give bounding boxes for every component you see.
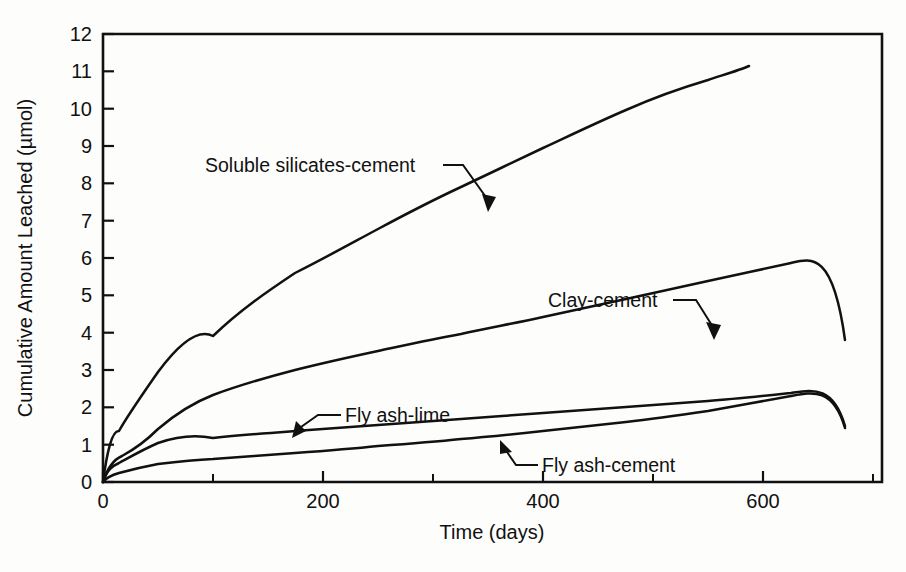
x-axis-title: Time (days) (440, 521, 545, 543)
data-curves (103, 66, 845, 482)
y-tick-label-9: 9 (81, 135, 92, 157)
y-tick-label-0: 0 (81, 471, 92, 493)
x-axis-tick-labels: 0 200 400 600 (97, 490, 779, 512)
plot-frame (103, 34, 882, 482)
y-tick-label-10: 10 (70, 98, 92, 120)
series-label-clay-cement: Clay-cement (548, 289, 658, 311)
leader-soluble-silicates-cement (443, 165, 488, 200)
figure-canvas: 0 1 2 3 4 5 6 7 8 9 10 11 12 0 (0, 0, 906, 572)
arrowhead-fly-ash-lime (292, 421, 306, 438)
arrowhead-soluble-silicates-cement (482, 194, 496, 212)
series-label-soluble-silicates-cement: Soluble silicates-cement (205, 154, 416, 176)
y-tick-label-2: 2 (81, 396, 92, 418)
y-axis-title: Cumulative Amount Leached (µmol) (14, 99, 36, 417)
y-axis-ticks (103, 34, 114, 482)
x-tick-label-600: 600 (746, 490, 779, 512)
annotation-fly-ash-lime: Fly ash-lime (292, 404, 450, 438)
y-tick-label-4: 4 (81, 322, 92, 344)
x-tick-label-0: 0 (97, 490, 108, 512)
series-label-fly-ash-lime: Fly ash-lime (345, 404, 450, 426)
arrowhead-clay-cement (706, 322, 721, 340)
y-tick-label-3: 3 (81, 359, 92, 381)
y-tick-label-6: 6 (81, 247, 92, 269)
cumulative-leaching-chart: 0 1 2 3 4 5 6 7 8 9 10 11 12 0 (0, 0, 906, 572)
leader-fly-ash-lime (301, 415, 341, 427)
annotation-soluble-silicates-cement: Soluble silicates-cement (205, 154, 496, 212)
annotation-clay-cement: Clay-cement (548, 289, 721, 340)
annotation-fly-ash-cement: Fly ash-cement (500, 440, 676, 476)
y-tick-label-8: 8 (81, 172, 92, 194)
x-tick-label-200: 200 (306, 490, 339, 512)
arrowhead-fly-ash-cement (500, 440, 512, 454)
leader-fly-ash-cement (507, 452, 538, 465)
curve-clay-cement (103, 261, 845, 482)
y-tick-label-12: 12 (70, 23, 92, 45)
x-tick-label-400: 400 (526, 490, 559, 512)
x-axis-ticks (103, 471, 873, 482)
y-tick-label-7: 7 (81, 210, 92, 232)
y-tick-label-5: 5 (81, 284, 92, 306)
curve-fly-ash-lime (103, 391, 845, 482)
series-label-fly-ash-cement: Fly ash-cement (542, 454, 676, 476)
y-axis-tick-labels: 0 1 2 3 4 5 6 7 8 9 10 11 12 (70, 23, 92, 493)
y-tick-label-1: 1 (81, 434, 92, 456)
y-tick-label-11: 11 (71, 60, 92, 82)
